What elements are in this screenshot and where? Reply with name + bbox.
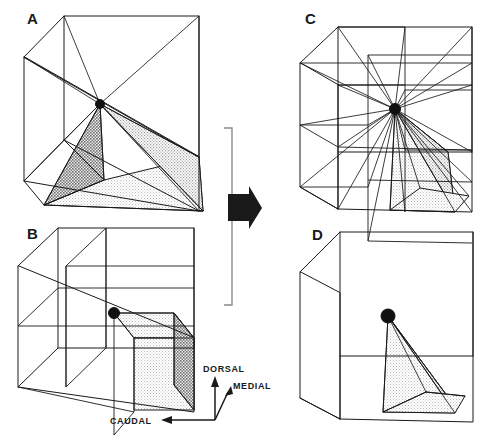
panel-d-center-node [381,309,395,323]
figure-canvas: A B [0,0,492,447]
panel-a-center-node [96,100,105,109]
panel-c-label: C [305,10,316,27]
panel-b-center-node [109,308,120,319]
dorsal-label: DORSAL [203,364,245,374]
panel-c-center-node [390,104,401,115]
panel-d-label: D [312,226,323,243]
panel-b-label: B [27,225,38,242]
caudal-label: CAUDAL [110,416,152,426]
panel-a-label: A [27,10,38,27]
medial-label: MEDIAL [233,381,271,391]
